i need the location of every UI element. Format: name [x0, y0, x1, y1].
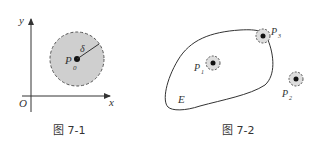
- p1-subscript: 1: [201, 69, 204, 75]
- figure-7-1: δ P 0 y x O 图 7-1: [18, 14, 114, 137]
- p1-point: [211, 61, 216, 66]
- p1-label: P: [193, 62, 200, 73]
- p3-point: [261, 34, 266, 39]
- point-label: P: [64, 54, 72, 66]
- caption-7-2: 图 7-2: [222, 124, 254, 137]
- caption-7-1: 图 7-1: [53, 124, 85, 137]
- y-axis-label: y: [18, 14, 24, 26]
- x-axis-label: x: [108, 96, 114, 108]
- p2-label: P: [281, 88, 288, 99]
- point-subscript: 0: [73, 64, 77, 72]
- p3-subscript: 3: [277, 33, 281, 39]
- origin-label: O: [19, 97, 27, 109]
- p3-label: P: [270, 26, 277, 37]
- p2-subscript: 2: [289, 95, 292, 101]
- radius-label: δ: [80, 43, 85, 54]
- region-label: E: [177, 93, 185, 105]
- figure-7-2: E P 3 P 1 P 2 图 7-2: [165, 26, 303, 137]
- p2-point: [294, 77, 299, 82]
- figures-canvas: δ P 0 y x O 图 7-1 E P 3 P 1 P 2 图 7-2: [0, 0, 323, 145]
